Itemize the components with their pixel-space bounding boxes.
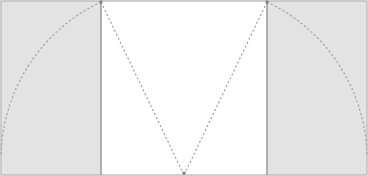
apex-right-vertex-marker: [266, 1, 269, 4]
geometry-figure: [0, 0, 368, 176]
figure-canvas: [0, 0, 368, 176]
v-bottom-vertex-marker: [183, 172, 186, 175]
center-white-square: [101, 1, 267, 175]
apex-left-vertex-marker: [100, 1, 103, 4]
